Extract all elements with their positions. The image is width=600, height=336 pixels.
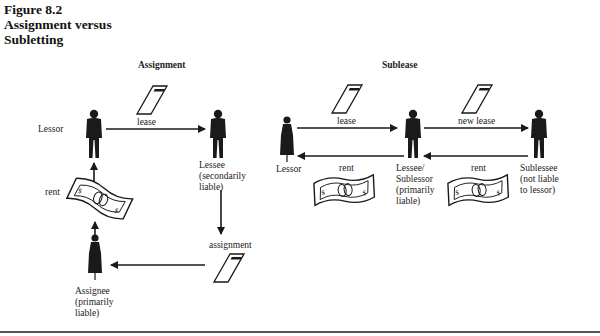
- assignment-lease-document-icon: [137, 86, 167, 114]
- sublease-lessee-sublessor-label: Lessee/ Sublessor (primarily liable): [396, 163, 435, 207]
- sublease-sublessee-label: Sublessee (not liable to lessor): [520, 163, 559, 196]
- sublease-sublessee-figure: [531, 110, 547, 158]
- assignment-rent-label: rent: [45, 187, 60, 198]
- assignment-assignee-label: Assignee (primarily liable): [75, 286, 114, 319]
- sublease-lessor-label: Lessor: [276, 164, 301, 175]
- sublease-lessee-figure: [405, 110, 421, 158]
- sublease-rent-left-label: rent: [339, 163, 354, 174]
- assignment-lessor-figure: [86, 110, 102, 158]
- assignment-lease-label: lease: [137, 117, 156, 128]
- assignment-document-icon: [214, 254, 244, 282]
- sublease-rent-bill-right-icon: [446, 172, 511, 208]
- bottom-rule-divider: [0, 331, 600, 333]
- assignment-lessee-label: Lessee (secondarily liable): [199, 160, 246, 193]
- sublease-new-lease-label: new lease: [458, 116, 495, 127]
- assignment-rent-bill-icon: [66, 175, 134, 223]
- sublease-new-lease-document-icon: [462, 85, 492, 113]
- assignment-lessee-figure: [210, 110, 226, 158]
- assignment-assignment-label: assignment: [209, 240, 252, 251]
- sublease-lessor-figure: [280, 116, 294, 162]
- sublease-rent-right-label: rent: [471, 163, 486, 174]
- sublease-rent-bill-left-icon: [312, 172, 377, 208]
- sublease-lease-label: lease: [337, 116, 356, 127]
- assignment-assignee-figure: [88, 234, 102, 280]
- sublease-lease-document-icon: [332, 85, 362, 113]
- assignment-lessor-label: Lessor: [38, 124, 63, 135]
